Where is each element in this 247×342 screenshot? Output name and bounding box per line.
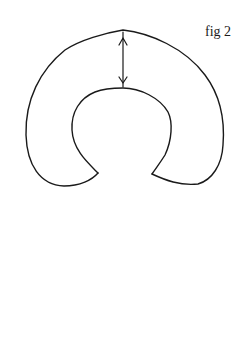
figure-label: fig 2 (205, 24, 231, 40)
width-measurement-arrow (119, 32, 127, 87)
horseshoe-outline (26, 30, 223, 186)
inner-edge (72, 88, 171, 174)
diagram-canvas: fig 2 (0, 0, 247, 342)
outer-edge (26, 30, 223, 186)
